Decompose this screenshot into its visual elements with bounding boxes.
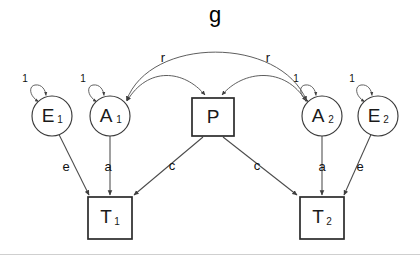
loop-e1-label: 1 bbox=[22, 73, 28, 84]
correlation-r-left: r bbox=[127, 50, 205, 101]
path-diagram-canvas: g r r 1 1 1 1 bbox=[0, 0, 420, 263]
node-T2-subscript: 2 bbox=[326, 216, 332, 227]
node-T2-label: T bbox=[312, 206, 324, 227]
path-a1-t1: a bbox=[104, 136, 112, 195]
corr-a1-a2-arc bbox=[127, 52, 307, 100]
node-A2[interactable]: A 2 bbox=[302, 96, 342, 136]
loop-e2-label: 1 bbox=[349, 73, 355, 84]
node-E1-subscript: 1 bbox=[57, 114, 63, 125]
node-A1-label: A bbox=[100, 105, 113, 126]
node-A2-subscript: 2 bbox=[328, 114, 334, 125]
path-e1-t1-label: e bbox=[62, 159, 69, 174]
corr-a1-p-label: r bbox=[161, 50, 166, 65]
node-T2[interactable]: T 2 bbox=[300, 197, 344, 239]
node-E1-label: E bbox=[42, 105, 55, 126]
node-A1-subscript: 1 bbox=[116, 114, 122, 125]
node-E2-label: E bbox=[368, 105, 381, 126]
node-T1-subscript: 1 bbox=[114, 216, 120, 227]
path-p-t2-label: c bbox=[254, 158, 261, 173]
path-diagram-svg: g r r 1 1 1 1 bbox=[0, 0, 420, 263]
variance-loop-e2: 1 bbox=[349, 73, 372, 102]
path-a2-t2: a bbox=[318, 136, 326, 195]
node-E1[interactable]: E 1 bbox=[32, 96, 72, 136]
correlation-g: g bbox=[127, 2, 307, 101]
variance-loop-e1: 1 bbox=[22, 73, 46, 102]
path-e2-t2: e bbox=[344, 135, 371, 196]
loop-a1-label: 1 bbox=[80, 73, 86, 84]
node-P[interactable]: P bbox=[192, 98, 234, 136]
node-P-label: P bbox=[207, 106, 220, 127]
node-T1-label: T bbox=[100, 206, 112, 227]
corr-a2-p-label: r bbox=[266, 50, 271, 65]
node-A1[interactable]: A 1 bbox=[90, 96, 130, 136]
path-e1-t1: e bbox=[59, 135, 89, 196]
path-p-t1-label: c bbox=[169, 158, 176, 173]
node-A2-label: A bbox=[312, 105, 325, 126]
page-divider-rule bbox=[0, 254, 420, 255]
path-p-t1: c bbox=[134, 137, 203, 195]
path-p-t2: c bbox=[223, 137, 297, 195]
node-E2[interactable]: E 2 bbox=[358, 96, 398, 136]
node-T1[interactable]: T 1 bbox=[88, 197, 132, 239]
corr-a1-a2-label: g bbox=[209, 2, 221, 27]
node-E2-subscript: 2 bbox=[383, 114, 389, 125]
path-e2-t2-label: e bbox=[356, 159, 363, 174]
variance-loop-a1: 1 bbox=[80, 73, 104, 102]
path-a2-t2-label: a bbox=[318, 159, 326, 174]
loop-a2-label: 1 bbox=[293, 73, 299, 84]
path-a1-t1-label: a bbox=[104, 159, 112, 174]
